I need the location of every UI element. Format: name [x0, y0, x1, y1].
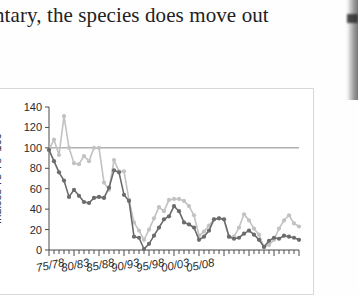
- series-point-abundance: [282, 234, 286, 238]
- scan-gutter-blot: [347, 14, 358, 23]
- series-point-abundance: [287, 235, 291, 239]
- series-point-distribution: [57, 153, 61, 157]
- y-axis-tick-label: 80: [30, 162, 42, 174]
- series-point-abundance: [167, 214, 171, 218]
- series-point-distribution: [242, 212, 246, 216]
- series-point-distribution: [112, 158, 116, 162]
- series-point-abundance: [72, 188, 76, 192]
- series-point-distribution: [292, 221, 296, 225]
- y-axis-title: Indices 75-78=100: [0, 133, 3, 224]
- series-point-distribution: [67, 146, 71, 150]
- scanned-page: ntary, the species does move out 0204060…: [0, 0, 358, 295]
- series-point-distribution: [152, 216, 156, 220]
- series-point-abundance: [242, 232, 246, 236]
- series-point-abundance: [272, 236, 276, 240]
- series-point-abundance: [212, 217, 216, 221]
- series-point-distribution: [202, 230, 206, 234]
- series-point-distribution: [97, 146, 101, 150]
- series-point-abundance: [182, 220, 186, 224]
- series-point-abundance: [207, 228, 211, 232]
- series-point-distribution: [77, 162, 81, 166]
- series-point-abundance: [62, 178, 66, 182]
- scan-gutter-artifact: [345, 0, 358, 100]
- series-point-distribution: [82, 154, 86, 158]
- series-point-abundance: [142, 247, 146, 251]
- series-point-distribution: [147, 227, 151, 231]
- series-point-distribution: [277, 226, 281, 230]
- series-point-abundance: [257, 238, 261, 242]
- series-point-abundance: [252, 233, 256, 237]
- series-point-distribution: [92, 146, 96, 150]
- series-point-abundance: [202, 235, 206, 239]
- series-point-distribution: [62, 114, 66, 118]
- series-point-abundance: [162, 217, 166, 221]
- series-point-abundance: [107, 186, 111, 190]
- series-point-distribution: [162, 209, 166, 213]
- series-point-distribution: [177, 197, 181, 201]
- series-point-abundance: [297, 238, 301, 242]
- series-point-distribution: [287, 213, 291, 217]
- series-point-abundance: [112, 168, 116, 172]
- series-point-abundance: [97, 195, 101, 199]
- series-point-abundance: [82, 200, 86, 204]
- series-point-distribution: [157, 205, 161, 209]
- series-point-distribution: [182, 199, 186, 203]
- y-axis-tick-label: 0: [36, 244, 42, 256]
- series-point-abundance: [132, 235, 136, 239]
- series-point-distribution: [247, 218, 251, 222]
- series-point-abundance: [172, 204, 176, 208]
- series-point-distribution: [297, 224, 301, 228]
- series-point-abundance: [247, 228, 251, 232]
- series-point-distribution: [172, 197, 176, 201]
- body-text-line: ntary, the species does move out: [0, 2, 314, 28]
- series-point-abundance: [77, 194, 81, 198]
- x-axis-tick-label: 05/08: [185, 256, 216, 274]
- series-point-distribution: [282, 218, 286, 222]
- y-axis-tick-label: 100: [24, 142, 42, 154]
- series-point-abundance: [147, 242, 151, 246]
- series-point-distribution: [252, 226, 256, 230]
- series-point-distribution: [137, 228, 141, 232]
- y-axis-tick-label: 20: [30, 224, 42, 236]
- series-point-distribution: [192, 213, 196, 217]
- series-point-abundance: [47, 148, 51, 152]
- series-point-abundance: [92, 196, 96, 200]
- series-point-abundance: [197, 238, 201, 242]
- y-axis-tick-label: 60: [30, 183, 42, 195]
- series-point-abundance: [157, 225, 161, 229]
- series-point-abundance: [237, 236, 241, 240]
- series-point-abundance: [127, 199, 131, 203]
- series-point-abundance: [67, 195, 71, 199]
- series-point-distribution: [167, 198, 171, 202]
- series-point-distribution: [237, 225, 241, 229]
- series-point-abundance: [177, 209, 181, 213]
- series-point-abundance: [52, 159, 56, 163]
- series-point-abundance: [187, 222, 191, 226]
- series-point-distribution: [257, 233, 261, 237]
- series-point-abundance: [262, 245, 266, 249]
- series-point-distribution: [52, 138, 56, 142]
- series-point-abundance: [222, 217, 226, 221]
- series-point-abundance: [232, 237, 236, 241]
- series-point-distribution: [102, 180, 106, 184]
- line-chart: 020406080100120140Indices 75-78=10075/78…: [0, 89, 313, 294]
- series-point-distribution: [87, 159, 91, 163]
- y-axis-tick-label: 120: [24, 121, 42, 133]
- series-point-abundance: [227, 235, 231, 239]
- series-point-abundance: [267, 239, 271, 243]
- series-point-distribution: [72, 161, 76, 165]
- series-point-abundance: [192, 225, 196, 229]
- series-point-abundance: [57, 170, 61, 174]
- series-point-abundance: [292, 236, 296, 240]
- series-point-abundance: [87, 201, 91, 205]
- series-point-abundance: [117, 170, 121, 174]
- series-point-abundance: [122, 193, 126, 197]
- series-point-distribution: [187, 204, 191, 208]
- series-point-abundance: [277, 237, 281, 241]
- series-point-distribution: [142, 238, 146, 242]
- series-point-abundance: [102, 196, 106, 200]
- figure-chart-container: 020406080100120140Indices 75-78=10075/78…: [0, 88, 314, 295]
- series-line-distribution: [49, 116, 299, 247]
- y-axis-tick-label: 140: [24, 101, 42, 113]
- series-point-distribution: [122, 169, 126, 173]
